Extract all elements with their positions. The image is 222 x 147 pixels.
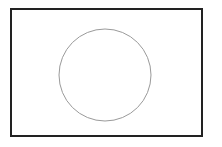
flag-outline-diagram [0,0,222,147]
outer-rectangle [11,9,202,136]
diagram-canvas [0,0,222,147]
